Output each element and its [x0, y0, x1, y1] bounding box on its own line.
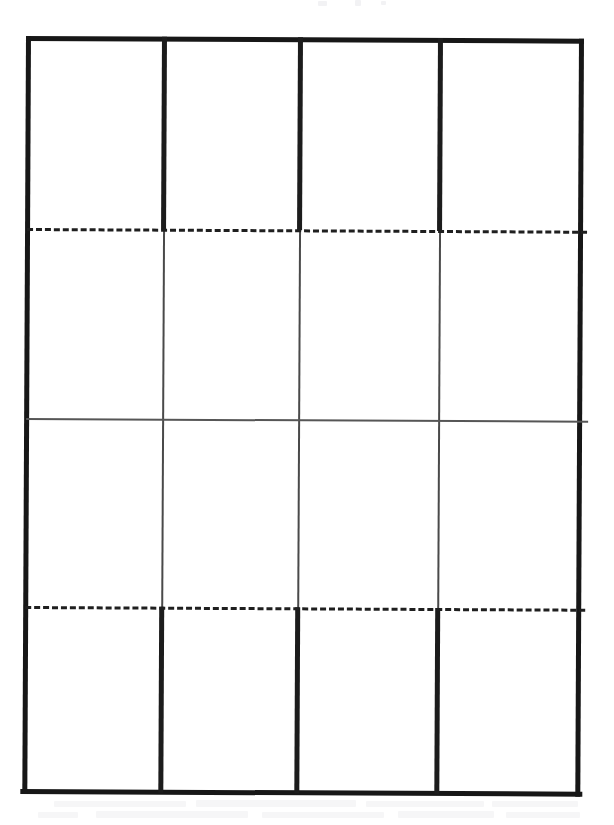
- bleed-through-line-2: [196, 800, 356, 807]
- table-border-left: [22, 36, 31, 794]
- bleed-through-line-9: [506, 812, 580, 818]
- bottom-scan-artifacts: [0, 798, 614, 825]
- bleed-through-line-6: [96, 811, 248, 818]
- column-divider-2-band-2: [298, 230, 301, 420]
- bleed-through-line-3: [366, 801, 484, 807]
- column-divider-3-band-2: [438, 231, 441, 421]
- column-divider-3-band-1: [437, 38, 443, 231]
- bleed-through-line-5: [38, 812, 78, 818]
- mid-rule: [26, 418, 588, 423]
- table-border-right: [575, 39, 584, 797]
- column-divider-2-band-3: [297, 420, 300, 609]
- column-divider-1-band-2: [162, 230, 165, 420]
- column-divider-3-band-3: [437, 421, 440, 610]
- scan-speck-2: [355, 0, 361, 6]
- column-divider-1-band-4: [158, 607, 164, 793]
- bleed-through-line-4: [492, 801, 578, 807]
- column-divider-2-band-1: [297, 37, 303, 230]
- column-divider-2-band-4: [294, 607, 300, 793]
- bleed-through-line-8: [398, 811, 494, 818]
- grid-table: [22, 36, 584, 797]
- bleed-through-line-7: [262, 812, 384, 818]
- top-scan-artifacts: [0, 0, 614, 16]
- bleed-through-line-1: [54, 801, 186, 807]
- column-divider-1-band-1: [161, 37, 167, 230]
- scanned-page: [0, 0, 614, 825]
- table-border-top: [26, 36, 584, 44]
- dashed-rule-upper: [27, 228, 587, 234]
- scan-speck-3: [381, 1, 386, 5]
- scan-speck-1: [318, 1, 327, 6]
- column-divider-1-band-3: [161, 420, 164, 609]
- dashed-rule-lower: [25, 606, 585, 612]
- column-divider-3-band-4: [434, 608, 440, 794]
- table-border-bottom: [20, 789, 582, 797]
